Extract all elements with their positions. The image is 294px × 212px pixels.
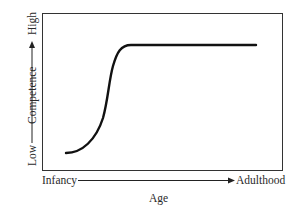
- x-start-label: Infancy: [42, 174, 77, 187]
- y-high-label: High: [26, 12, 39, 35]
- plot-frame: [43, 14, 283, 171]
- competence-age-diagram: Low Competence High Infancy Adulthood Ag…: [0, 0, 294, 212]
- y-arrow-head-icon: [29, 41, 35, 48]
- x-axis-title: Age: [149, 192, 168, 205]
- y-low-label: Low: [26, 144, 38, 166]
- x-arrow-head-icon: [228, 178, 235, 184]
- x-end-label: Adulthood: [236, 174, 285, 186]
- competence-curve: [66, 45, 256, 153]
